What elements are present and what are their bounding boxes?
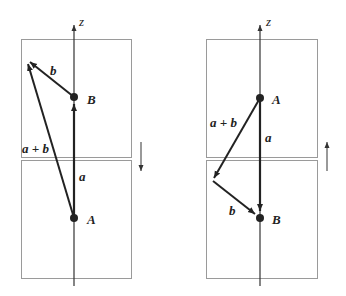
right-label-B: B [271, 212, 281, 227]
right-label-a: a [265, 130, 272, 145]
right-panel: z A B a + b a b [207, 14, 328, 286]
left-label-a: a [79, 169, 86, 184]
right-label-sum: a + b [210, 115, 237, 130]
left-panel: z B A b a a + b [22, 14, 142, 286]
right-z-label: z [265, 14, 271, 29]
right-label-b: b [229, 203, 236, 218]
left-point-B [70, 93, 78, 101]
vector-diagram: z B A b a a + b z A B a + b a b [0, 0, 346, 296]
left-point-A [70, 214, 78, 222]
left-label-A: A [86, 212, 96, 227]
left-label-b: b [50, 63, 57, 78]
left-z-label: z [78, 14, 84, 29]
right-point-B [256, 214, 264, 222]
right-vector-sum [214, 98, 260, 178]
right-label-A: A [271, 92, 281, 107]
left-label-B: B [86, 92, 96, 107]
right-point-A [256, 94, 264, 102]
left-label-sum: a + b [22, 141, 49, 156]
